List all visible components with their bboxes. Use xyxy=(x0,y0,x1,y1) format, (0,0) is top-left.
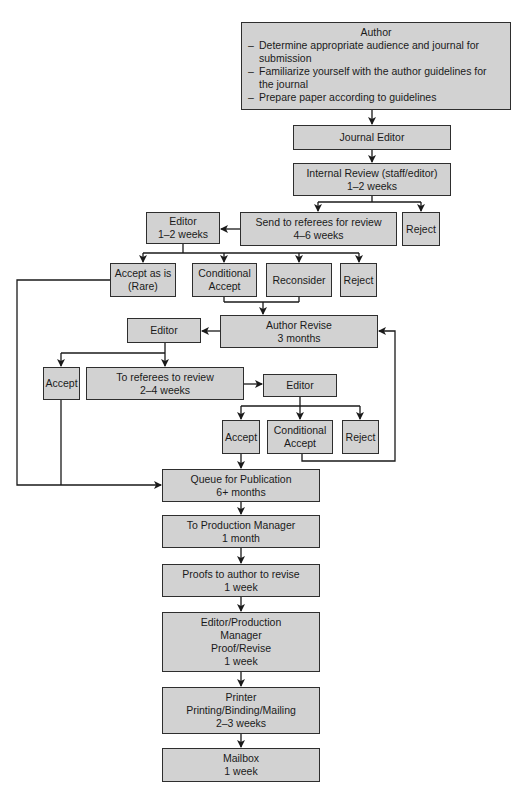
node-label: Printer xyxy=(226,691,257,704)
node-label: Editor xyxy=(150,324,177,337)
node-conditional-accept-1: Conditional Accept xyxy=(192,263,257,297)
node-editor-review: Editor 1–2 weeks xyxy=(146,212,220,244)
publication-flowchart: Author Determine appropriate audience an… xyxy=(0,0,520,791)
node-label: Accept xyxy=(45,377,77,390)
node-label: Reject xyxy=(344,274,374,287)
node-label: Author Revise xyxy=(266,319,332,332)
node-label: Manager xyxy=(220,629,261,642)
node-send-to-referees: Send to referees for review 4–6 weeks xyxy=(240,212,397,246)
author-bullet-list: Determine appropriate audience and journ… xyxy=(248,39,504,104)
node-label: Accept xyxy=(208,280,240,293)
node-duration: 3 months xyxy=(277,332,320,345)
node-duration: 2–4 weeks xyxy=(140,384,190,397)
node-label: Conditional xyxy=(198,267,251,280)
node-label: Reconsider xyxy=(272,274,325,287)
node-label: Accept xyxy=(284,437,316,450)
node-label: To Production Manager xyxy=(187,519,296,532)
node-duration: 1 week xyxy=(224,655,257,668)
node-label: Proofs to author to revise xyxy=(182,568,299,581)
node-label: Editor xyxy=(286,379,313,392)
node-accept-as-is: Accept as is (Rare) xyxy=(110,263,176,297)
node-duration: 4–6 weeks xyxy=(293,229,343,242)
node-label: To referees to review xyxy=(116,371,213,384)
node-internal-review: Internal Review (staff/editor) 1–2 weeks xyxy=(293,163,451,196)
node-label: Proof/Revise xyxy=(211,642,271,655)
node-editor-production: Editor/Production Manager Proof/Revise 1… xyxy=(162,612,320,672)
node-label: Conditional xyxy=(274,424,327,437)
node-duration: 1–2 weeks xyxy=(158,228,208,241)
node-label: Accept xyxy=(225,431,257,444)
node-label: Mailbox xyxy=(223,752,259,765)
node-label: Send to referees for review xyxy=(255,216,381,229)
node-author: Author Determine appropriate audience an… xyxy=(241,22,511,110)
node-proofs-author: Proofs to author to revise 1 week xyxy=(162,564,320,597)
node-label: Editor xyxy=(169,215,196,228)
node-label: Internal Review (staff/editor) xyxy=(306,167,437,180)
node-editor-revision: Editor xyxy=(127,318,201,343)
author-bullet: Familiarize yourself with the author gui… xyxy=(248,65,504,91)
node-printer: Printer Printing/Binding/Mailing 2–3 wee… xyxy=(162,687,320,734)
node-reject-referee: Reject xyxy=(340,263,377,297)
node-label: Journal Editor xyxy=(340,131,405,144)
node-duration: 1 week xyxy=(224,765,257,778)
author-bullet: Determine appropriate audience and journ… xyxy=(248,39,504,65)
node-note: (Rare) xyxy=(128,280,158,293)
node-reject-internal: Reject xyxy=(402,212,440,246)
node-to-referees-review: To referees to review 2–4 weeks xyxy=(86,367,244,400)
node-conditional-accept-2: Conditional Accept xyxy=(267,420,333,454)
node-label: Reject xyxy=(346,431,376,444)
node-reconsider: Reconsider xyxy=(266,263,332,297)
node-accept-revision: Accept xyxy=(43,367,80,400)
node-editor-second-review: Editor xyxy=(263,374,337,397)
node-reject-second-review: Reject xyxy=(342,420,379,454)
node-label: Printing/Binding/Mailing xyxy=(186,704,296,717)
node-label: Reject xyxy=(406,223,436,236)
node-mailbox: Mailbox 1 week xyxy=(162,748,320,782)
node-label: Editor/Production xyxy=(201,616,282,629)
node-duration: 1 month xyxy=(222,532,260,545)
node-duration: 1 week xyxy=(224,581,257,594)
node-duration: 1–2 weeks xyxy=(347,180,397,193)
node-journal-editor: Journal Editor xyxy=(293,125,451,150)
node-accept-second-review: Accept xyxy=(222,420,260,454)
author-bullet: Prepare paper according to guidelines xyxy=(248,91,504,104)
node-author-revise: Author Revise 3 months xyxy=(220,315,378,348)
node-duration: 2–3 weeks xyxy=(216,717,266,730)
node-author-title: Author xyxy=(361,26,392,39)
node-label: Accept as is xyxy=(115,267,172,280)
node-duration: 6+ months xyxy=(216,486,265,499)
node-production-manager: To Production Manager 1 month xyxy=(162,515,320,548)
node-queue-publication: Queue for Publication 6+ months xyxy=(162,469,320,502)
node-label: Queue for Publication xyxy=(191,473,292,486)
